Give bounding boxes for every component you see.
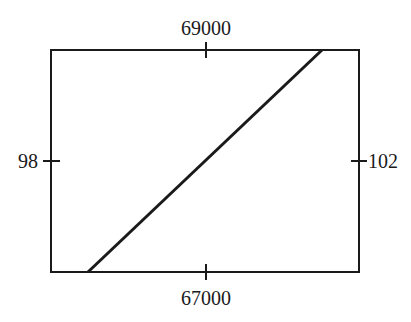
top-tick-label: 69000 <box>181 17 231 39</box>
data-line <box>88 50 322 272</box>
left-tick-label: 98 <box>18 150 38 172</box>
right-tick-label: 102 <box>368 150 398 172</box>
bottom-tick-label: 67000 <box>181 287 231 309</box>
diagram-canvas: 69000 67000 98 102 <box>0 0 411 322</box>
